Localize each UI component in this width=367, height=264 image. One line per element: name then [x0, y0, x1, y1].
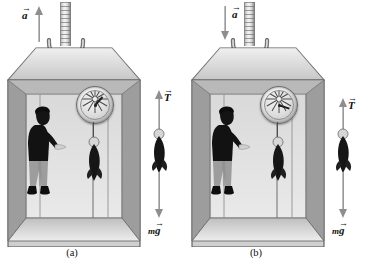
person-in-elevator: [22, 104, 68, 200]
panel-caption-b: (b): [236, 247, 276, 258]
acceleration-vector-a: [32, 6, 46, 42]
weight-vector-mg: [336, 172, 350, 218]
hanging-fish: [268, 136, 288, 182]
weight-label-g: g: [155, 224, 161, 236]
weight-label-m: m: [332, 226, 339, 236]
spring-scale-dial: [260, 86, 298, 124]
dial-face: [80, 90, 110, 120]
acceleration-label-a: → a: [232, 5, 240, 20]
weight-vector-mg: [152, 172, 166, 218]
panel-b: → a → T → mg (b): [184, 0, 367, 264]
physics-figure-elevator-scale: → a → T → mg (a): [0, 0, 367, 264]
person-in-elevator: [206, 104, 252, 200]
free-body-fish: [333, 128, 353, 174]
panel-a: → a → T → mg (a): [0, 0, 183, 264]
free-body-fish: [149, 128, 169, 174]
dial-hub: [278, 104, 281, 107]
hanging-fish: [84, 136, 104, 182]
weight-label-mg: → mg: [332, 221, 347, 236]
dial-face: [264, 90, 294, 120]
panel-caption-a: (a): [52, 247, 92, 258]
spring-scale-dial: [76, 86, 114, 124]
acceleration-vector-a: [218, 6, 232, 40]
weight-label-mg: → mg: [148, 221, 163, 236]
tension-label-T: → T: [348, 96, 356, 111]
weight-label-m: m: [148, 226, 155, 236]
dial-hub: [94, 104, 97, 107]
tension-label-T: → T: [164, 88, 172, 103]
acceleration-label-a: → a: [22, 6, 30, 21]
weight-label-g: g: [339, 224, 345, 236]
